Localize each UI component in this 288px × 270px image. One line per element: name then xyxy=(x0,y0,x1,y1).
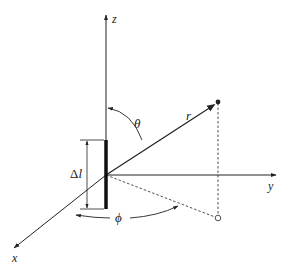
delta-symbol: Δ xyxy=(70,166,78,181)
x-axis-label: x xyxy=(11,251,18,265)
dipole-coordinate-diagram: z y x r Δl θ ϕ xyxy=(0,0,288,270)
projection-radial-dashed xyxy=(106,175,215,217)
phi-label: ϕ xyxy=(115,210,122,225)
r-vector xyxy=(106,105,214,175)
theta-label: θ xyxy=(134,116,141,131)
r-label: r xyxy=(186,108,192,123)
z-axis-label: z xyxy=(111,12,117,26)
observation-point xyxy=(216,100,221,105)
projection-point xyxy=(215,215,221,221)
phi-arc-left xyxy=(76,215,110,218)
phi-arc-right xyxy=(130,206,178,218)
y-axis-label: y xyxy=(267,179,274,193)
l-symbol: l xyxy=(78,166,82,181)
x-axis xyxy=(14,175,106,248)
dipole-length-label: Δl xyxy=(70,166,82,181)
